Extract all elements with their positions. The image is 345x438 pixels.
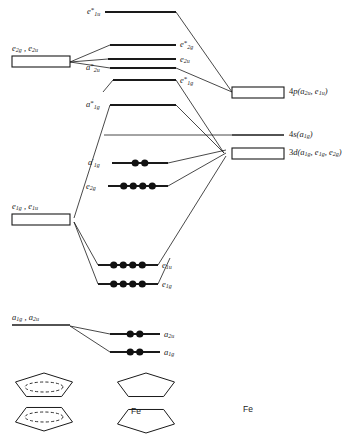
correlation-line <box>74 222 98 284</box>
mo-energy-level-diagram: e*1ue*2ge2ua*2ue*1ga*1ga′1ge2ge1ue1ga2ua… <box>0 0 345 438</box>
fragment-box-lgo-e2g-e2u <box>12 56 70 67</box>
electron-dot <box>136 330 143 337</box>
fragment-label-ao-4p: 4p(a2u, e1u) <box>289 87 327 96</box>
structure-drawings-group <box>15 373 174 433</box>
fragment-label-lgo-a1g-a2u: a1g , a2u <box>12 313 39 322</box>
correlation-line <box>168 150 226 163</box>
electron-dot <box>136 348 143 355</box>
electron-dot <box>139 182 146 189</box>
metal-center-label: Fe <box>243 404 253 414</box>
correlation-line <box>103 80 113 92</box>
correlation-line <box>74 222 98 265</box>
electron-dot <box>139 261 146 268</box>
electron-dot <box>110 280 117 287</box>
pi-orbital-lobe-upper <box>25 382 63 392</box>
structure-struct-ferrocene <box>117 373 174 433</box>
cp-ring-lower <box>117 409 174 433</box>
electron-dot <box>120 182 127 189</box>
mo-label-mo-a1g-prime: a′1g <box>88 158 100 168</box>
energy-levels-group <box>98 12 176 352</box>
electron-dot <box>129 280 136 287</box>
electron-dot <box>129 261 136 268</box>
mo-label-mo-e1u: e1u <box>162 261 172 270</box>
fragment-box-lgo-e1g-e1u <box>12 214 70 225</box>
mo-label-mo-e1g: e1g <box>162 280 172 289</box>
electron-dot <box>110 261 117 268</box>
cp-ring-lower <box>15 407 72 431</box>
mo-label-mo-a1g-star: a*1g <box>86 100 100 110</box>
electron-dot <box>141 159 148 166</box>
cp-ring-upper <box>117 373 174 397</box>
mo-label-mo-a2u: a2u <box>164 330 174 339</box>
mo-label-mo-e2g: e2g <box>86 182 96 191</box>
cp-ring-upper <box>15 373 72 397</box>
electron-dot <box>127 348 134 355</box>
electron-dot <box>120 280 127 287</box>
fragment-label-ao-4s: 4s(a1g) <box>289 130 312 139</box>
mo-label-mo-e2g-star: e*2g <box>180 40 193 50</box>
mo-label-mo-e2u: e2u <box>180 55 190 64</box>
electron-dot <box>120 261 127 268</box>
electron-dot <box>139 280 146 287</box>
mo-label-mo-e1g-star: e*1g <box>180 76 193 86</box>
correlation-line <box>176 105 224 153</box>
fragment-box-ao-4p <box>232 87 284 98</box>
electron-pairs-group <box>110 159 156 355</box>
mo-label-mo-a2u-star: a*2u <box>86 63 100 73</box>
metal-center-label: Fe <box>131 406 141 416</box>
structure-struct-ligands <box>15 373 72 431</box>
mo-label-mo-e1u-star: e*1u <box>87 7 100 17</box>
electron-dot <box>130 182 137 189</box>
pi-orbital-lobe-lower <box>25 412 63 422</box>
electron-dot <box>149 182 156 189</box>
mo-label-mo-a1g: a1g <box>164 348 174 357</box>
fragment-box-ao-3d <box>232 148 284 159</box>
correlation-line <box>176 80 224 153</box>
fragment-label-ao-3d: 3d(a1g, e1g, e2g) <box>289 148 342 157</box>
electron-dot <box>132 159 139 166</box>
electron-dot <box>127 330 134 337</box>
diagram-canvas <box>0 0 345 438</box>
fragment-label-lgo-e1g-e1u: e1g , e1u <box>12 202 38 211</box>
fragment-label-lgo-e2g-e2u: e2g , e2u <box>12 44 38 53</box>
